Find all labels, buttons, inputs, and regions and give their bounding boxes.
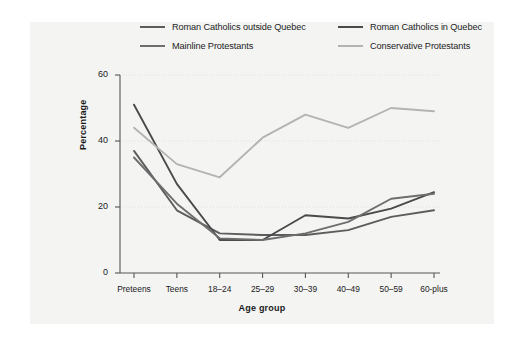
series-line-3 — [134, 108, 434, 177]
y-tick-label: 20 — [78, 201, 108, 211]
figure-canvas: Roman Catholics outside Quebec Roman Cat… — [0, 0, 524, 345]
plot-area: Percentage Age group 0204060 PreteensTee… — [0, 0, 524, 345]
series-line-0 — [134, 151, 434, 235]
x-tick-label: 60-plus — [404, 284, 464, 294]
series-line-1 — [134, 105, 434, 240]
x-axis-title: Age group — [0, 303, 524, 313]
y-tick-label: 0 — [78, 267, 108, 277]
y-tick-label: 40 — [78, 135, 108, 145]
y-tick-label: 60 — [78, 69, 108, 79]
